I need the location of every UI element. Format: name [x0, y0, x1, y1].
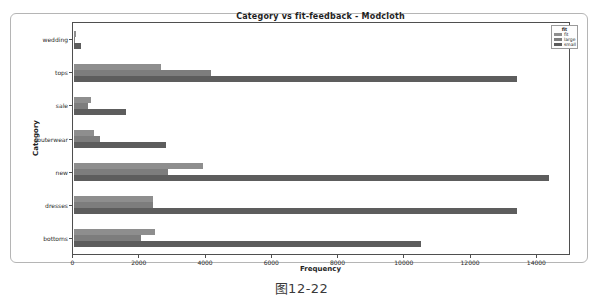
- legend-entry: small: [554, 42, 575, 47]
- y-tick-mark: [69, 105, 72, 106]
- y-tick-label: outerwear: [0, 136, 68, 143]
- y-tick-label: dresses: [0, 202, 68, 209]
- y-tick-mark: [69, 139, 72, 140]
- bar-small: [74, 241, 422, 247]
- x-tick-mark: [205, 255, 206, 258]
- legend-label: small: [564, 42, 576, 47]
- legend-entries: fitlargesmall: [554, 32, 575, 47]
- legend-swatch: [554, 38, 562, 41]
- x-tick-mark: [271, 255, 272, 258]
- x-tick-mark: [72, 255, 73, 258]
- figure-caption: 图12-22: [0, 278, 603, 297]
- legend-swatch: [554, 33, 562, 36]
- y-tick-label: bottoms: [0, 235, 68, 242]
- y-tick-mark: [69, 238, 72, 239]
- x-tick-mark: [536, 255, 537, 258]
- x-axis-label: Frequency: [72, 265, 569, 273]
- page: Category vs fit-feedback - Modcloth Cate…: [0, 0, 603, 300]
- x-tick-mark: [470, 255, 471, 258]
- chart-title: Category vs fit-feedback - Modcloth: [72, 12, 569, 21]
- y-tick-mark: [69, 39, 72, 40]
- bar-small: [74, 109, 126, 115]
- y-tick-label: wedding: [0, 36, 68, 43]
- legend-swatch: [554, 43, 562, 46]
- y-tick-label: sale: [0, 102, 68, 109]
- x-tick-mark: [138, 255, 139, 258]
- bar-small: [74, 43, 81, 49]
- y-tick-mark: [69, 72, 72, 73]
- y-tick-mark: [69, 172, 72, 173]
- legend: fit fitlargesmall: [551, 25, 578, 49]
- y-tick-label: tops: [0, 69, 68, 76]
- bar-small: [74, 175, 549, 181]
- x-tick-mark: [403, 255, 404, 258]
- bar-small: [74, 208, 518, 214]
- x-tick-mark: [337, 255, 338, 258]
- y-tick-label: new: [0, 169, 68, 176]
- bar-small: [74, 142, 166, 148]
- plot-area: [72, 22, 570, 255]
- y-tick-mark: [69, 205, 72, 206]
- bar-small: [74, 76, 518, 82]
